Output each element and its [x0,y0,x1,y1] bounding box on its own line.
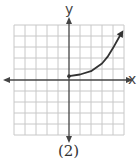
y-axis-label: y [65,1,73,17]
x-axis-left-arrow-icon [3,77,10,83]
function-curve [69,33,122,76]
figure-caption: (2) [0,142,137,160]
x-axis-label: x [128,71,136,87]
coordinate-graph [0,0,137,162]
y-axis-up-arrow-icon [66,17,72,24]
start-point-dot [67,74,71,78]
curve [67,30,123,78]
